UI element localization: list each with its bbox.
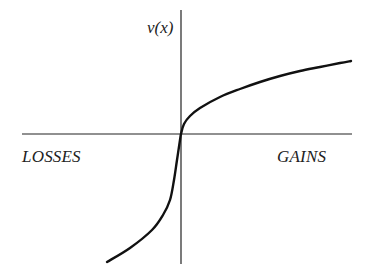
- losses-label: LOSSES: [22, 148, 81, 165]
- value-function-chart: v(x) LOSSES GAINS: [0, 0, 370, 279]
- plot-area: [0, 0, 370, 279]
- gains-label: GAINS: [277, 148, 326, 165]
- y-axis-label: v(x): [147, 19, 173, 36]
